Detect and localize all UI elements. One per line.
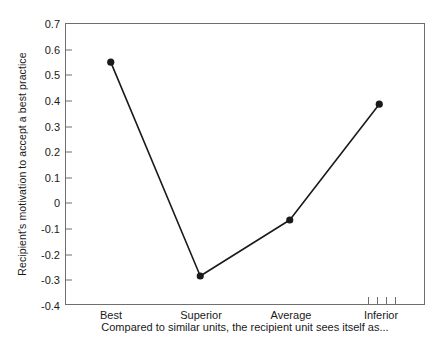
plot-area: 0.70.60.50.40.30.20.10-0.1-0.2-0.3-0.4 B…	[65, 23, 425, 305]
y-tick-label: 0	[30, 198, 60, 209]
y-tick-label: -0.4	[30, 301, 60, 312]
data-series	[66, 24, 424, 304]
y-tick-label: 0.5	[30, 70, 60, 81]
x-tick-label: Superior	[180, 310, 222, 321]
y-tick-label: -0.3	[30, 275, 60, 286]
y-tick-label: 0.6	[30, 44, 60, 55]
y-tick-label: 0.4	[30, 95, 60, 106]
y-tick-label: 0.1	[30, 172, 60, 183]
series-line	[111, 62, 380, 276]
data-point-marker	[286, 216, 293, 223]
x-axis-caption: Compared to similar units, the recipient…	[65, 322, 425, 333]
x-tick-label: Inferior	[364, 310, 398, 321]
y-tick-label: 0.7	[30, 19, 60, 30]
y-tick-label: -0.1	[30, 224, 60, 235]
y-tick-label: -0.2	[30, 249, 60, 260]
data-point-marker	[107, 59, 114, 66]
line-chart-figure: Recipient's motivation to accept a best …	[0, 0, 444, 350]
x-tick-label: Average	[271, 310, 312, 321]
y-tick-label: 0.2	[30, 147, 60, 158]
y-tick-label: 0.3	[30, 121, 60, 132]
data-point-marker	[197, 272, 204, 279]
y-axis-title: Recipient's motivation to accept a best …	[14, 23, 30, 305]
series-markers	[107, 59, 383, 280]
data-point-marker	[376, 101, 383, 108]
x-tick-label: Best	[100, 310, 122, 321]
